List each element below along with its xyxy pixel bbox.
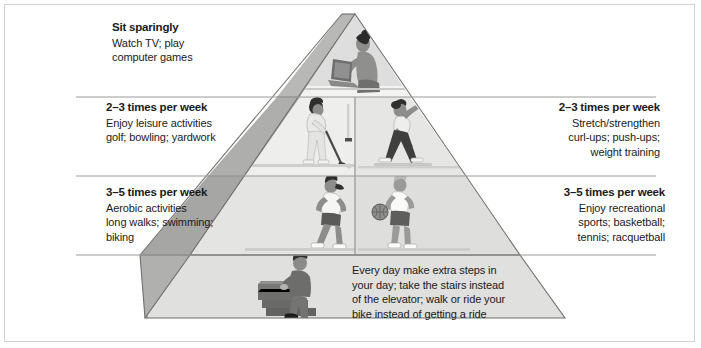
label-stretch-strengthen: 2–3 times per week Stretch/strengthen cu… (470, 100, 660, 159)
label-line: Every day make extra steps in (352, 263, 557, 278)
label-leisure-activities: 2–3 times per week Enjoy leisure activit… (106, 100, 291, 145)
label-line: Stretch/strengthen (470, 116, 660, 131)
label-line: Enjoy leisure activities (106, 116, 291, 131)
label-line: golf; bowling; yardwork (106, 130, 291, 145)
label-line: tennis; racquetball (470, 230, 665, 245)
label-line: Aerobic activities (106, 201, 291, 216)
label-line: sports; basketball; (470, 215, 665, 230)
label-line: Enjoy recreational (470, 201, 665, 216)
infographic-page: Sit sparingly Watch TV; play computer ga… (0, 0, 701, 348)
label-line: weight training (470, 145, 660, 160)
label-line: computer games (112, 50, 287, 65)
label-everyday-activity: Every day make extra steps in your day; … (352, 263, 557, 321)
label-line: your day; take the stairs instead (352, 278, 557, 293)
label-heading: Sit sparingly (112, 20, 287, 35)
label-sit-sparingly: Sit sparingly Watch TV; play computer ga… (112, 20, 287, 65)
label-line: curl-ups; push-ups; (470, 130, 660, 145)
label-line: of the elevator; walk or ride your (352, 292, 557, 307)
label-recreational-sports: 3–5 times per week Enjoy recreational sp… (470, 185, 665, 244)
label-heading: 2–3 times per week (470, 100, 660, 115)
label-heading: 3–5 times per week (106, 185, 291, 200)
label-line: bike instead of getting a ride (352, 307, 557, 322)
label-heading: 2–3 times per week (106, 100, 291, 115)
label-line: Watch TV; play (112, 36, 287, 51)
label-aerobic-activities: 3–5 times per week Aerobic activities lo… (106, 185, 291, 244)
label-heading: 3–5 times per week (470, 185, 665, 200)
label-line: long walks; swimming; (106, 215, 291, 230)
activity-pyramid-illustration (0, 0, 701, 348)
label-line: biking (106, 230, 291, 245)
